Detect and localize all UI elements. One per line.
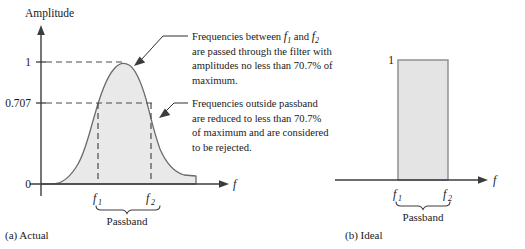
- x-axis-label-actual: f: [233, 177, 238, 191]
- x-axis-arrow-ideal: [478, 176, 488, 183]
- y-tick-label-1-actual: 1: [25, 56, 31, 68]
- note1-mid: and: [291, 31, 312, 42]
- passband-note-line-2: are passed through the filter with: [192, 46, 332, 57]
- y-axis-arrow-actual: [37, 25, 45, 35]
- passband-label-actual: Passband: [107, 215, 148, 227]
- svg-text:1: 1: [98, 198, 102, 207]
- y-tick-label-0-actual: 0: [25, 178, 31, 190]
- svg-text:2: 2: [151, 198, 155, 207]
- y-tick-label-1-ideal: 1: [388, 54, 394, 66]
- annotation-stopband-note: Frequencies outside passband are reduced…: [159, 98, 329, 153]
- leader-line-passband-note: [141, 36, 188, 60]
- stopband-note-line-4: to be rejected.: [192, 142, 252, 153]
- svg-text:1: 1: [398, 194, 402, 203]
- leader-arrow-stopband-note: [159, 109, 170, 118]
- x-tick-label-f1-actual: f 1: [93, 191, 102, 207]
- x-tick-label-f2-ideal: f 2: [443, 187, 452, 203]
- actual-response-curve: [41, 63, 196, 184]
- panel-ideal: 1 f f 1 f 2 Passband (b) Ideal: [335, 54, 498, 242]
- passband-note-line-4: maximum.: [192, 75, 238, 86]
- leader-line-stopband-note: [165, 103, 188, 112]
- passband-note-line-3: amplitudes no less than 70.7% of: [192, 60, 333, 71]
- x-tick-label-f2-actual: f 2: [146, 191, 155, 207]
- passband-brace-ideal: [396, 202, 450, 210]
- stopband-note-line-3: of maximum and are considered: [192, 127, 329, 138]
- stopband-note-line-2: are reduced to less than 70.7%: [192, 113, 322, 124]
- y-axis-label-actual: Amplitude: [25, 7, 74, 20]
- passband-note-line-1: Frequencies between f1 and f2: [192, 29, 319, 45]
- passband-label-ideal: Passband: [403, 211, 444, 223]
- note1-sub-2: 2: [315, 36, 319, 45]
- panel-actual: Amplitude 1 0.707 0 f f 1 f 2 Passband (…: [5, 7, 238, 242]
- caption-ideal: (b) Ideal: [345, 229, 383, 242]
- svg-text:Frequencies between f1 and f2: Frequencies between f1 and f2: [192, 29, 319, 45]
- x-tick-label-f1-ideal: f 1: [393, 187, 402, 203]
- ideal-response-rect: [398, 60, 448, 180]
- filter-response-figure: Amplitude 1 0.707 0 f f 1 f 2 Passband (…: [0, 0, 525, 249]
- y-tick-label-0707-actual: 0.707: [5, 97, 31, 109]
- note1-pre: Frequencies between: [192, 31, 284, 42]
- x-axis-label-ideal: f: [493, 173, 498, 187]
- caption-actual: (a) Actual: [5, 229, 49, 242]
- stopband-note-line-1: Frequencies outside passband: [192, 98, 319, 109]
- annotation-passband-note: Frequencies between f1 and f2 are passed…: [134, 29, 333, 86]
- x-axis-arrow-actual: [219, 180, 229, 187]
